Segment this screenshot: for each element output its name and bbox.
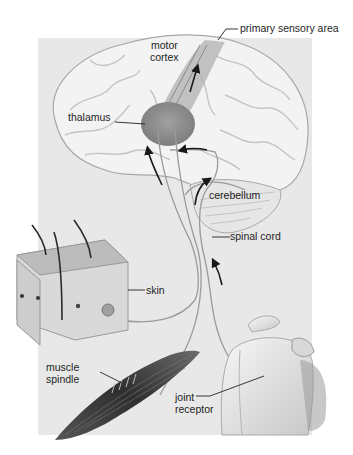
label-thalamus: thalamus	[68, 112, 111, 123]
label-joint-receptor-line2: receptor	[175, 404, 214, 415]
label-spinal-cord: spinal cord	[230, 231, 281, 242]
label-cerebellum: cerebellum	[209, 190, 260, 201]
label-primary-sensory-area: primary sensory area	[240, 23, 339, 34]
label-motor-cortex-line2: cortex	[150, 52, 179, 63]
label-joint-receptor-line1: joint	[175, 392, 194, 403]
label-muscle-spindle-line1: muscle	[46, 362, 79, 373]
sensory-pathway-illustration	[0, 0, 353, 455]
cerebellum	[190, 180, 281, 233]
thalamus	[141, 102, 195, 146]
label-muscle-spindle-line2: spindle	[46, 374, 79, 385]
shoulder-joint	[221, 316, 326, 435]
skin-block	[17, 220, 128, 345]
label-motor-cortex-line1: motor	[151, 40, 178, 51]
label-skin: skin	[146, 285, 165, 296]
